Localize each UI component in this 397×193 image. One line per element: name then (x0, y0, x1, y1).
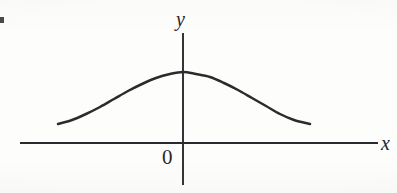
x-axis-label: x (381, 133, 390, 153)
coordinate-plot (0, 0, 397, 193)
y-axis-label: y (176, 9, 185, 29)
origin-label: 0 (162, 147, 173, 168)
figure-canvas: y x 0 (0, 0, 397, 193)
bell-curve-path (58, 72, 310, 124)
